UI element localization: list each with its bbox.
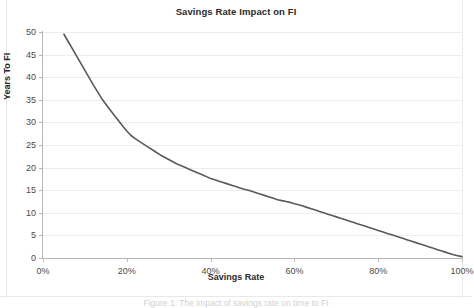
page-frame-bottom-border <box>0 296 472 297</box>
y-tick-label: 0 <box>31 253 36 263</box>
y-axis-title: Years To FI <box>2 53 12 100</box>
x-tick-mark <box>462 258 463 262</box>
x-tick-mark <box>127 258 128 262</box>
x-axis-title: Savings Rate <box>0 272 472 282</box>
chart-title: Savings Rate Impact on FI <box>0 6 472 17</box>
x-tick-label: 0% <box>36 266 49 276</box>
plot-area: 05101520253035404550 0%20%40%60%80%100% <box>43 32 462 258</box>
x-tick-mark <box>211 258 212 262</box>
page-frame-right-border <box>462 0 463 298</box>
x-tick-mark <box>43 258 44 262</box>
series-line-chart <box>43 32 462 258</box>
x-tick-mark <box>294 258 295 262</box>
figure-caption: Figure 1: The impact of savings rate on … <box>0 298 472 308</box>
y-tick-label: 10 <box>26 208 36 218</box>
y-tick-label: 45 <box>26 50 36 60</box>
x-tick-label: 80% <box>369 266 387 276</box>
y-tick-label: 15 <box>26 185 36 195</box>
x-tick-label: 100% <box>450 266 473 276</box>
x-tick-label: 20% <box>118 266 136 276</box>
y-tick-label: 50 <box>26 27 36 37</box>
y-tick-label: 35 <box>26 95 36 105</box>
y-tick-label: 20 <box>26 163 36 173</box>
series-line-years-to-fi <box>64 34 462 256</box>
x-axis-line <box>42 258 462 259</box>
y-tick-label: 30 <box>26 117 36 127</box>
x-tick-label: 40% <box>202 266 220 276</box>
x-tick-mark <box>378 258 379 262</box>
y-tick-label: 40 <box>26 72 36 82</box>
y-tick-label: 5 <box>31 230 36 240</box>
x-tick-label: 60% <box>285 266 303 276</box>
page-frame-left-border <box>6 0 7 298</box>
y-tick-label: 25 <box>26 140 36 150</box>
